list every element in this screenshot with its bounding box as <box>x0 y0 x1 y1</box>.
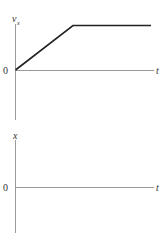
position-time-graph: x t 0 <box>3 130 159 233</box>
origin-label-top: 0 <box>3 65 8 76</box>
kinematics-graphs: v x t 0 x t 0 <box>0 0 160 233</box>
x-axis-label: x <box>12 130 18 141</box>
origin-label-bottom: 0 <box>3 182 8 193</box>
vx-axis-label-subscript: x <box>16 20 20 26</box>
velocity-curve <box>16 26 152 71</box>
t-axis-label-top: t <box>156 65 159 76</box>
velocity-time-graph: v x t 0 <box>3 13 159 120</box>
t-axis-label-bottom: t <box>156 182 159 193</box>
